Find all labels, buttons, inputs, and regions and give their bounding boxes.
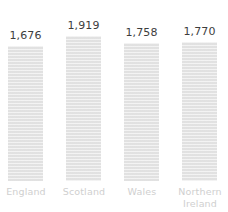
value-label-northern-ireland: 1,770	[184, 25, 216, 38]
bar-group-wales[interactable]: 1,758	[124, 0, 159, 181]
bar-wales[interactable]	[124, 43, 159, 181]
value-label-wales: 1,758	[126, 26, 158, 39]
bar-group-northern-ireland[interactable]: 1,770	[182, 0, 217, 181]
value-label-england: 1,676	[10, 29, 42, 42]
bar-group-scotland[interactable]: 1,919	[66, 0, 101, 181]
category-label-england: England	[0, 186, 55, 198]
category-label-scotland: Scotland	[55, 186, 113, 198]
category-label-wales: Wales	[113, 186, 171, 198]
value-label-scotland: 1,919	[68, 19, 100, 32]
category-label-northern-ireland: Northern Ireland	[171, 186, 228, 210]
bar-scotland[interactable]	[66, 36, 101, 181]
bar-england[interactable]	[8, 46, 43, 181]
bar-northern-ireland[interactable]	[182, 42, 217, 181]
plot-area: 1,676 1,919 1,758 1,770 England Scotland…	[0, 0, 228, 212]
bar-chart: 1,676 1,919 1,758 1,770 England Scotland…	[0, 0, 228, 212]
bar-group-england[interactable]: 1,676	[8, 0, 43, 181]
